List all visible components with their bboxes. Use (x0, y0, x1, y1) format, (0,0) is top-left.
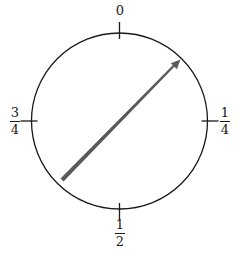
fraction-numerator: 3 (10, 106, 20, 120)
label-0-text: 0 (116, 3, 124, 18)
fraction-denominator: 4 (10, 123, 20, 137)
arrow-shaft (61, 62, 178, 182)
label-three-quarters: 3 4 (6, 106, 24, 137)
label-0: 0 (110, 4, 130, 17)
fraction-denominator: 2 (115, 235, 125, 249)
fraction-one-half: 1 2 (115, 218, 125, 249)
fraction-numerator: 1 (220, 106, 230, 120)
direction-arrow (61, 60, 181, 182)
label-one-quarter: 1 4 (216, 106, 234, 137)
fraction-three-quarters: 3 4 (10, 106, 20, 137)
label-one-half: 1 2 (110, 218, 130, 249)
turn-circle-figure: 0 1 4 1 2 3 4 (0, 0, 240, 256)
fraction-one-quarter: 1 4 (220, 106, 230, 137)
fraction-numerator: 1 (115, 218, 125, 232)
fraction-denominator: 4 (220, 123, 230, 137)
